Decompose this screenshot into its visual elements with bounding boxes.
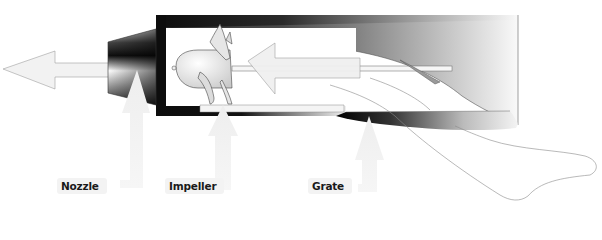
impeller-label: Impeller	[165, 178, 224, 194]
intake-duct	[200, 105, 518, 130]
grate-label: Grate	[308, 178, 352, 194]
grate-callout-arrow-icon	[355, 116, 384, 192]
nozzle-label: Nozzle	[57, 178, 107, 194]
outlet-flow-arrow-icon	[3, 51, 110, 89]
